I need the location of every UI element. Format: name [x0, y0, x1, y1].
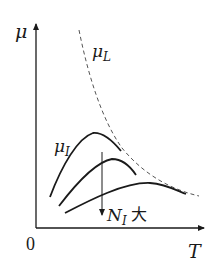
ni-large-label: NI — [106, 205, 127, 228]
y-axis-label: μ — [15, 20, 27, 42]
impurity-curve-mid-ni — [59, 159, 136, 206]
lattice-mobility-label: μL — [92, 41, 111, 64]
ni-large-suffix: 大 — [131, 205, 147, 224]
origin-label: 0 — [26, 234, 35, 254]
impurity-curve-high-ni — [65, 183, 186, 213]
x-axis-label: T — [188, 240, 202, 262]
impurity-mobility-label: μI — [54, 136, 70, 159]
mobility-temperature-diagram: μ T 0 μL μI NI 大 — [0, 0, 218, 272]
